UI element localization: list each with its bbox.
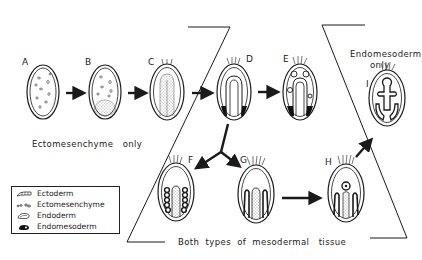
- ectomesenchyme-swatch-icon: [16, 201, 32, 209]
- endomesoderm-swatch-icon: [16, 223, 32, 231]
- arrow-d-branch: [221, 124, 228, 152]
- embryo-d: [217, 57, 251, 120]
- embryo-b: [89, 65, 121, 119]
- endoderm-swatch-icon: [16, 212, 32, 220]
- embryo-a: [27, 65, 59, 119]
- stage-label-e: E: [283, 54, 289, 64]
- arrow-d-f: [198, 152, 221, 167]
- caption-both-types: Both types of mesodermal tissue: [178, 237, 346, 247]
- legend-label: Endomesoderm: [37, 222, 97, 232]
- stage-label-h: H: [325, 157, 332, 167]
- stage-label-g: G: [240, 155, 247, 165]
- stage-label-a: A: [22, 57, 28, 67]
- embryo-h: [328, 155, 364, 222]
- ectoderm-swatch-icon: [16, 190, 32, 198]
- embryo-i: [369, 62, 405, 126]
- stage-label-f: F: [188, 155, 193, 165]
- stage-label-i: I: [366, 79, 369, 89]
- stage-label-c: C: [148, 57, 154, 67]
- legend-label: Ectoderm: [37, 189, 73, 199]
- legend-label: Ectomesenchyme: [37, 200, 105, 210]
- caption-endomesoderm-only-line1: Endomesoderm: [350, 49, 422, 59]
- stage-label-d: D: [246, 54, 253, 64]
- embryo-e: [283, 56, 317, 120]
- arrow-d-g: [221, 152, 238, 165]
- embryo-g: [238, 156, 274, 223]
- caption-endomesoderm-only-line2: only: [370, 60, 390, 70]
- caption-ectomesenchyme-only: Ectomesenchyme only: [32, 139, 142, 149]
- embryo-c: [150, 59, 184, 120]
- arrow-h-i: [356, 141, 370, 157]
- legend-label: Endoderm: [37, 211, 76, 221]
- stage-label-b: B: [85, 57, 91, 67]
- legend: Ectoderm Ectomesenchyme Endoderm Endomes…: [11, 186, 120, 234]
